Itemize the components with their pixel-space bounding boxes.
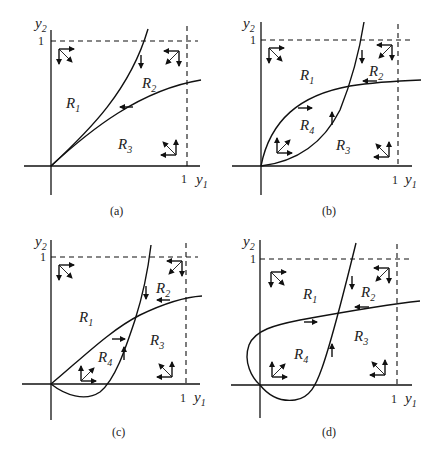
region-label-r2: R2 [155, 280, 170, 299]
region-label-r3: R3 [117, 136, 132, 155]
region-label-r1: R1 [65, 95, 80, 114]
panel-d: y2 1 1 y1 R1 R2 R3 R4 (d) [231, 233, 420, 439]
region-label-r2: R2 [368, 63, 383, 82]
caption-d: (d) [322, 425, 336, 439]
x-tick-one: 1 [181, 172, 187, 186]
vector-glyph-r4 [81, 366, 96, 381]
y2-axis-label: y2 [33, 15, 47, 34]
phase-portrait-figure: y2 1 1 y1 R1 R2 R3 (a) [0, 0, 437, 456]
vector-glyph-r4 [277, 138, 292, 153]
vector-glyph-r2 [164, 51, 179, 66]
y1-axis-label: y1 [403, 390, 417, 409]
y-tick-one: 1 [40, 250, 46, 264]
caption-a: (a) [110, 204, 123, 218]
y1-axis-label: y1 [192, 389, 206, 408]
y2-axis-label: y2 [241, 15, 255, 34]
vector-glyph-r3 [370, 360, 385, 375]
y-tick-one: 1 [38, 34, 44, 48]
region-label-r3: R3 [149, 332, 164, 351]
caption-b: (b) [322, 204, 336, 218]
panel-a: y2 1 1 y1 R1 R2 R3 (a) [24, 15, 208, 218]
vector-glyph-r1 [271, 272, 286, 287]
nullcline-shallow [51, 296, 202, 384]
y1-axis-label: y1 [403, 171, 417, 190]
caption-c: (c) [112, 425, 125, 439]
region-label-r4: R4 [293, 346, 308, 365]
region-label-r2: R2 [141, 75, 156, 94]
region-label-r1: R1 [299, 67, 314, 86]
x-tick-one: 1 [391, 392, 397, 406]
vector-glyph-r2 [377, 45, 392, 60]
x-tick-one: 1 [180, 391, 186, 405]
vector-glyph-r1 [59, 265, 74, 280]
region-label-r1: R1 [302, 286, 317, 305]
vector-glyph-r3 [157, 362, 172, 377]
nullcline-steep [51, 245, 151, 397]
panel-c: y2 1 1 y1 R1 R2 R3 R4 (c) [22, 233, 206, 439]
region-label-r4: R4 [97, 349, 112, 368]
vector-glyph-r3 [161, 140, 176, 155]
y1-axis-label: y1 [194, 171, 208, 190]
region-label-r3: R3 [353, 328, 368, 347]
y-tick-one: 1 [250, 33, 256, 47]
nullcline-shallow [51, 80, 201, 166]
y-tick-one: 1 [250, 252, 256, 266]
vector-glyph-r2 [374, 268, 389, 283]
nullcline-shallow [247, 301, 420, 385]
region-label-r4: R4 [299, 117, 314, 136]
vector-glyph-r1 [59, 49, 74, 64]
panel-b: y2 1 1 y1 R1 R2 R3 R4 (b) [232, 15, 421, 218]
vector-glyph-r4 [272, 362, 287, 377]
y2-axis-label: y2 [241, 233, 255, 252]
region-label-r1: R1 [78, 309, 93, 328]
x-tick-one: 1 [392, 173, 398, 187]
region-label-r3: R3 [335, 137, 350, 156]
vector-glyph-r1 [269, 48, 284, 63]
vector-glyph-r3 [374, 142, 389, 157]
vector-glyph-r2 [167, 261, 182, 276]
region-label-r2: R2 [360, 284, 375, 303]
